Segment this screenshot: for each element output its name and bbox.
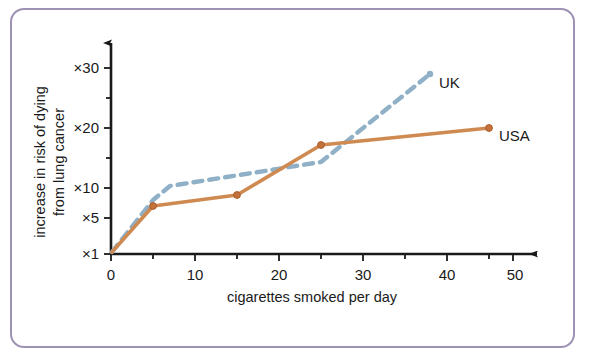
series-usa-point-1 (234, 192, 241, 199)
x-axis-tick-labels: 0 10 20 30 40 50 (107, 266, 524, 283)
chart-plot-area: ×1 ×5 ×10 ×20 ×30 0 10 20 30 40 50 cigar… (12, 10, 577, 350)
y-tick-label-x20: ×20 (74, 119, 99, 136)
y-tick-label-x5: ×5 (82, 209, 99, 226)
x-tick-label-40: 40 (439, 266, 456, 283)
series-uk-line (112, 74, 430, 252)
x-tick-label-20: 20 (271, 266, 288, 283)
series-uk (112, 71, 433, 252)
x-tick-label-0: 0 (107, 266, 115, 283)
x-tick-label-30: 30 (355, 266, 372, 283)
x-tick-label-50: 50 (507, 266, 524, 283)
y-axis-title-line1: increase in risk of dying (32, 86, 48, 238)
y-axis-title: increase in risk of dying from lung canc… (32, 86, 67, 238)
series-usa-point-0 (150, 203, 157, 210)
y-tick-label-x30: ×30 (74, 59, 99, 76)
series-uk-endpoint-marker (427, 71, 433, 77)
series-label-uk: UK (439, 74, 460, 91)
series-usa-point-2 (318, 142, 325, 149)
y-axis-title-line2: from lung cancer (51, 108, 67, 216)
axes-group (111, 43, 537, 254)
figure-frame: ×1 ×5 ×10 ×20 ×30 0 10 20 30 40 50 cigar… (10, 8, 575, 348)
y-axis-tick-labels: ×1 ×5 ×10 ×20 ×30 (74, 59, 99, 262)
x-axis-title: cigarettes smoked per day (227, 289, 398, 305)
y-tick-label-x1: ×1 (82, 245, 99, 262)
series-usa-point-3 (486, 125, 493, 132)
x-tick-label-10: 10 (187, 266, 204, 283)
y-tick-label-x10: ×10 (74, 179, 99, 196)
series-label-usa: USA (499, 127, 530, 144)
smoking-risk-line-chart: ×1 ×5 ×10 ×20 ×30 0 10 20 30 40 50 cigar… (12, 10, 577, 350)
